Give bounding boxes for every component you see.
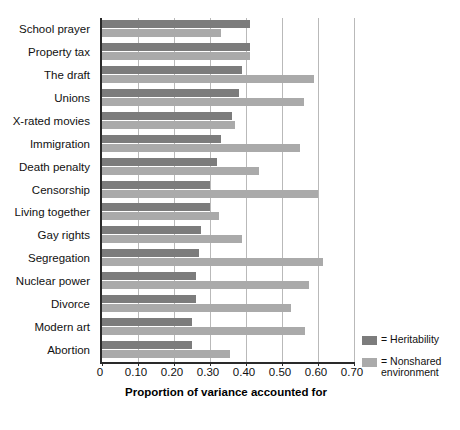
bar-heritability	[102, 341, 192, 349]
y-axis-label: School prayer	[19, 18, 90, 41]
bar-row	[102, 201, 354, 224]
x-tick-label: 0.30	[197, 366, 219, 378]
bar-heritability	[102, 89, 239, 97]
legend-swatch-heritability	[362, 336, 377, 345]
x-tick-label: 0.10	[125, 366, 147, 378]
bar-nonshared-environment	[102, 75, 314, 83]
y-axis-label: Property tax	[28, 41, 90, 64]
bar-nonshared-environment	[102, 304, 291, 312]
bar-row	[102, 87, 354, 110]
y-axis-label: Censorship	[32, 179, 90, 202]
x-axis-title: Proportion of variance accounted for	[100, 386, 352, 398]
bar-row	[102, 110, 354, 133]
bar-heritability	[102, 226, 201, 234]
y-axis-label: Modern art	[34, 316, 90, 339]
bar-nonshared-environment	[102, 144, 300, 152]
legend-entry: = Heritability	[362, 334, 458, 346]
bar-heritability	[102, 66, 242, 74]
bar-row	[102, 156, 354, 179]
y-axis-label: Death penalty	[19, 156, 90, 179]
bar-row	[102, 18, 354, 41]
bar-nonshared-environment	[102, 190, 318, 198]
bar-nonshared-environment	[102, 29, 221, 37]
bar-heritability	[102, 158, 217, 166]
chart-figure: School prayerProperty taxThe draftUnions…	[0, 0, 460, 430]
bar-heritability	[102, 249, 199, 257]
bar-row	[102, 224, 354, 247]
x-tick-label: 0.60	[305, 366, 327, 378]
bar-heritability	[102, 43, 250, 51]
bar-heritability	[102, 181, 210, 189]
bar-row	[102, 293, 354, 316]
bar-heritability	[102, 135, 221, 143]
chart-legend: = Heritability= Nonshared environment	[362, 334, 458, 389]
y-axis-label: Immigration	[30, 133, 90, 156]
bar-row	[102, 270, 354, 293]
y-axis-label: X-rated movies	[13, 110, 90, 133]
bar-row	[102, 339, 354, 362]
gridline	[354, 18, 355, 362]
legend-label: = Nonshared environment	[381, 356, 441, 379]
bar-row	[102, 41, 354, 64]
bar-nonshared-environment	[102, 281, 309, 289]
bar-nonshared-environment	[102, 350, 230, 358]
bar-nonshared-environment	[102, 327, 305, 335]
bar-heritability	[102, 112, 232, 120]
bar-row	[102, 64, 354, 87]
bar-heritability	[102, 295, 196, 303]
x-tick-label: 0.40	[233, 366, 255, 378]
y-axis-label: Living together	[15, 201, 90, 224]
y-axis-category-labels: School prayerProperty taxThe draftUnions…	[0, 18, 96, 362]
bar-heritability	[102, 272, 196, 280]
bar-nonshared-environment	[102, 235, 242, 243]
plot-area	[100, 18, 354, 364]
legend-label: = Heritability	[381, 334, 439, 346]
bar-nonshared-environment	[102, 98, 304, 106]
bar-row	[102, 133, 354, 156]
x-tick-label: 0.50	[269, 366, 291, 378]
y-axis-label: Unions	[54, 87, 90, 110]
y-axis-label: Segregation	[28, 247, 90, 270]
x-tick-label: 0	[97, 366, 103, 378]
bar-nonshared-environment	[102, 258, 323, 266]
bar-heritability	[102, 318, 192, 326]
bar-row	[102, 179, 354, 202]
y-axis-label: Nuclear power	[16, 270, 90, 293]
bar-rows	[102, 18, 354, 362]
legend-swatch-nonshared	[362, 358, 377, 367]
bar-heritability	[102, 203, 210, 211]
bar-nonshared-environment	[102, 212, 219, 220]
x-tick-label: 0.70	[341, 366, 363, 378]
y-axis-label: Abortion	[47, 339, 90, 362]
y-axis-label: Gay rights	[38, 224, 90, 247]
bar-heritability	[102, 20, 250, 28]
bar-nonshared-environment	[102, 121, 235, 129]
bar-nonshared-environment	[102, 52, 250, 60]
y-axis-label: The draft	[44, 64, 90, 87]
bar-row	[102, 316, 354, 339]
x-tick-label: 0.20	[161, 366, 183, 378]
bar-nonshared-environment	[102, 167, 259, 175]
legend-entry: = Nonshared environment	[362, 356, 458, 379]
y-axis-label: Divorce	[51, 293, 90, 316]
bar-row	[102, 247, 354, 270]
